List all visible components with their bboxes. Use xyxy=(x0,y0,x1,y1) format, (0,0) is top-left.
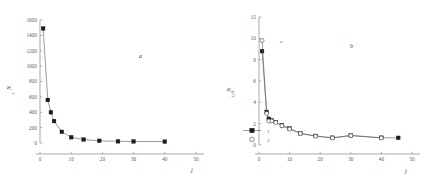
y-tick-label: 1400 xyxy=(26,32,37,38)
x-tick-label: 0 xyxy=(258,156,261,162)
panel-b-x-axis-title: j xyxy=(404,167,407,174)
legend-label-2: 2 xyxy=(267,138,270,143)
chart-panel-a: 0200400600800100012001400160001020304050… xyxy=(0,0,217,181)
data-point-1 xyxy=(41,27,45,31)
panel-b-legend: 1 2 xyxy=(243,128,270,143)
panel-a-series xyxy=(41,27,166,144)
data-point-1 xyxy=(52,119,56,123)
x-tick-label: 10 xyxy=(287,156,293,162)
panel-a-y-axis-title: N xyxy=(5,85,12,91)
y-tick-label: 0 xyxy=(34,140,37,146)
y-tick-label: 800 xyxy=(29,78,37,84)
panel-b-y-axis-subscript: j,i,k xyxy=(230,91,236,98)
y-tick-label: 4 xyxy=(253,99,256,105)
x-tick-label: 20 xyxy=(318,156,324,162)
panel-b-outlier-annotation: o xyxy=(280,39,283,44)
panel-b-label: b xyxy=(350,42,353,49)
x-tick-label: 40 xyxy=(379,156,385,162)
x-tick-label: 50 xyxy=(409,156,415,162)
panel-b-series xyxy=(260,38,400,139)
data-point-2 xyxy=(349,134,353,138)
data-point-2 xyxy=(270,119,274,123)
panel-a-tick-labels: 0200400600800100012001400160001020304050 xyxy=(26,17,199,162)
panel-b-axes xyxy=(255,17,420,154)
data-point-2 xyxy=(288,127,292,131)
data-point-1 xyxy=(82,138,86,142)
data-point-1 xyxy=(116,139,120,143)
y-tick-label: 200 xyxy=(29,125,37,131)
legend-marker-filled-square xyxy=(250,128,255,133)
y-tick-label: 8 xyxy=(253,57,256,63)
panel-a-x-axis-title: j xyxy=(190,166,193,173)
y-tick-label: 0 xyxy=(253,142,256,148)
y-tick-label: 2 xyxy=(253,121,256,127)
data-point-2 xyxy=(314,134,318,138)
y-tick-label: 1200 xyxy=(26,48,37,54)
y-tick-label: 1600 xyxy=(26,17,37,23)
chart-panel-b: 02468101201020304050 N j,i,k j b o 1 2 xyxy=(217,0,434,181)
data-point-2 xyxy=(280,124,284,128)
y-tick-label: 12 xyxy=(251,14,257,20)
data-point-1 xyxy=(260,49,264,53)
data-point-1 xyxy=(49,110,53,114)
y-tick-label: 10 xyxy=(251,35,257,41)
data-point-2 xyxy=(330,136,334,140)
data-point-1 xyxy=(163,140,167,144)
data-point-1 xyxy=(97,139,101,143)
data-point-2 xyxy=(274,121,278,125)
y-tick-label: 600 xyxy=(29,94,37,100)
y-tick-label: 6 xyxy=(253,78,256,84)
x-tick-label: 0 xyxy=(39,156,42,162)
y-tick-label: 400 xyxy=(29,109,37,115)
legend-marker-open-circle xyxy=(250,137,255,142)
legend-label-1: 1 xyxy=(267,129,270,134)
x-tick-label: 30 xyxy=(348,156,354,162)
x-tick-label: 10 xyxy=(69,156,75,162)
data-point-1 xyxy=(60,130,64,134)
x-tick-label: 20 xyxy=(100,156,106,162)
panel-b-plot: 02468101201020304050 N j,i,k j b o 1 2 xyxy=(217,0,434,181)
data-point-2 xyxy=(379,136,383,140)
series-line-1 xyxy=(43,28,165,141)
data-point-1 xyxy=(132,140,136,144)
x-tick-label: 50 xyxy=(193,156,199,162)
y-tick-label: 1000 xyxy=(26,63,37,69)
panel-a-axes xyxy=(36,20,204,154)
panel-a-label: a xyxy=(139,52,142,59)
x-tick-label: 30 xyxy=(131,156,137,162)
data-point-2 xyxy=(298,131,302,135)
data-point-1 xyxy=(69,135,73,139)
data-point-1 xyxy=(396,136,400,140)
data-point-2 xyxy=(265,112,269,116)
panel-a-plot: 0200400600800100012001400160001020304050… xyxy=(0,0,217,181)
two-panel-figure: 0200400600800100012001400160001020304050… xyxy=(0,0,434,181)
panel-a-y-axis-subscript: j xyxy=(10,92,15,95)
data-point-2 xyxy=(260,38,264,42)
x-tick-label: 40 xyxy=(162,156,168,162)
data-point-1 xyxy=(46,98,50,102)
